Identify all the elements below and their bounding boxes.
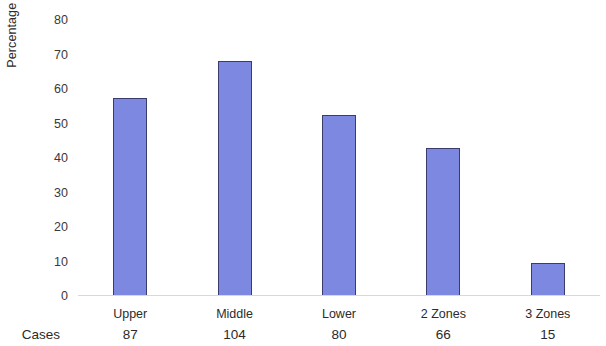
- x-axis-baseline: [78, 295, 600, 296]
- bar-chart-figure: Percentage Of Cases 80706050403020100 Up…: [0, 0, 606, 346]
- y-axis-tick-70: 70: [26, 48, 68, 61]
- y-axis-tick-10: 10: [26, 255, 68, 268]
- category-label: 3 Zones: [496, 303, 600, 325]
- bar-slot: [391, 20, 495, 296]
- category-label: 2 Zones: [391, 303, 495, 325]
- y-axis-tick-50: 50: [26, 117, 68, 130]
- cases-value: 15: [496, 324, 600, 346]
- y-axis-tick-80: 80: [26, 14, 68, 27]
- y-axis-tick-40: 40: [26, 152, 68, 165]
- bar-slot: [78, 20, 182, 296]
- cases-row-label: Cases: [8, 324, 74, 346]
- y-axis-title: Percentage Of Cases: [2, 0, 22, 92]
- bar[interactable]: [113, 98, 147, 296]
- y-axis-tick-20: 20: [26, 221, 68, 234]
- bar[interactable]: [322, 115, 356, 296]
- cases-value: 87: [78, 324, 182, 346]
- category-label: Upper: [78, 303, 182, 325]
- category-label: Middle: [182, 303, 286, 325]
- bar[interactable]: [531, 263, 565, 296]
- category-cases-table: UpperMiddleLower2 Zones3 Zones Cases 871…: [0, 301, 606, 346]
- cases-value: 104: [182, 324, 286, 346]
- category-label: Lower: [287, 303, 391, 325]
- plot-area: [78, 20, 600, 296]
- y-axis-tick-30: 30: [26, 186, 68, 199]
- cases-value: 80: [287, 324, 391, 346]
- category-label-row: UpperMiddleLower2 Zones3 Zones: [0, 303, 606, 325]
- cases-value: 66: [391, 324, 495, 346]
- bar-slot: [287, 20, 391, 296]
- y-axis-tick-labels: 80706050403020100: [26, 0, 68, 346]
- bar[interactable]: [218, 61, 252, 296]
- bar-slot: [496, 20, 600, 296]
- bar-slot: [182, 20, 286, 296]
- cases-value-row: Cases 87104806615: [0, 324, 606, 346]
- y-axis-tick-60: 60: [26, 83, 68, 96]
- bar[interactable]: [426, 148, 460, 296]
